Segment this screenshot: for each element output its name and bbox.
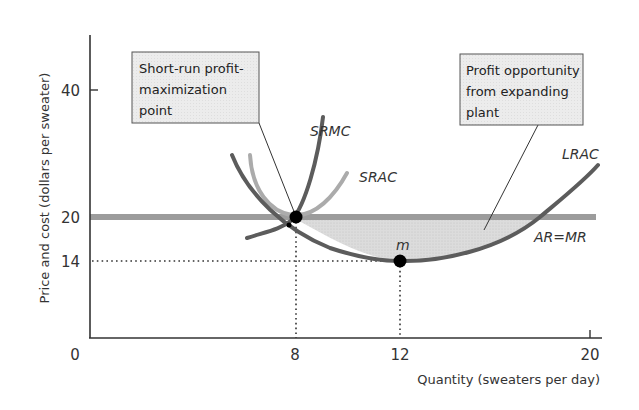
box2-line2: from expanding [466,84,569,99]
y-tick-label-14: 14 [61,253,80,271]
annotation-profit-opportunity: Profit opportunity from expanding plant [460,54,583,125]
x-tick-label-20: 20 [580,346,599,364]
y-axis-title: Price and cost (dollars per sweater) [37,73,52,304]
point-m-label: m [396,237,410,253]
point-m [394,255,407,268]
annotation-short-run-profit-max: Short-run profit- maximization point [132,52,259,123]
y-tick-label-40: 40 [61,82,80,100]
origin-label: 0 [70,346,80,364]
box1-line3: point [139,103,172,118]
srac-label: SRAC [359,169,397,185]
x-tick-label-8: 8 [290,346,300,364]
ar-mr-label: AR=MR [533,229,587,245]
y-tick-label-20: 20 [61,209,80,227]
short-run-profit-max-point [290,211,303,224]
box2-line1: Profit opportunity [466,63,580,78]
box2-line3: plant [466,105,499,120]
lrac-label: LRAC [562,146,599,162]
x-axis-title: Quantity (sweaters per day) [417,372,600,387]
box1-line2: maximization [139,82,227,97]
box1-line1: Short-run profit- [139,61,244,76]
srmc-label: SRMC [310,123,351,139]
chart-canvas: 40 20 14 0 8 12 20 Price and cost (dolla… [0,0,639,410]
lrac-intersect-dot [287,223,292,228]
x-tick-label-12: 12 [390,346,409,364]
